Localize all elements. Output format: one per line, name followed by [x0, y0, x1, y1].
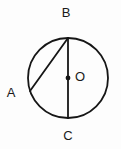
vertex-label-o: O	[75, 69, 85, 84]
geometry-diagram: B O A C	[0, 0, 121, 149]
chord-ba-line	[30, 38, 68, 91]
vertex-label-c: C	[63, 128, 72, 143]
vertex-label-b: B	[62, 5, 71, 20]
vertex-label-a: A	[7, 85, 16, 100]
center-point-dot	[66, 76, 71, 81]
circle-diagram-canvas: B O A C	[0, 0, 121, 149]
